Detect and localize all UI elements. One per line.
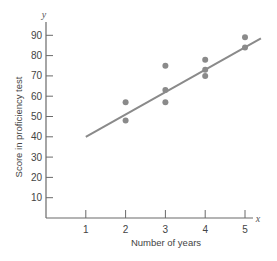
regression-line-segment — [86, 38, 261, 136]
y-tick-label: 40 — [31, 131, 43, 142]
y-axis-variable: y — [41, 9, 47, 20]
x-tick-label: 4 — [202, 224, 208, 235]
x-axis-label: Number of years — [131, 237, 201, 248]
y-tick-label: 20 — [31, 172, 43, 183]
data-point — [123, 99, 129, 105]
data-point — [123, 118, 129, 124]
data-point — [202, 67, 208, 73]
y-tick-label: 60 — [31, 91, 43, 102]
y-axis-label: Score in proficiency test — [13, 76, 24, 177]
y-tick-label: 50 — [31, 111, 43, 122]
data-point — [202, 73, 208, 79]
y-tick-label: 10 — [31, 192, 43, 203]
x-axis-variable: x — [255, 213, 261, 224]
x-axis-ticks: 12345 — [83, 210, 248, 235]
y-tick-label: 30 — [31, 152, 43, 163]
data-point — [162, 63, 168, 69]
data-point — [202, 57, 208, 63]
x-tick-label: 2 — [123, 224, 129, 235]
x-tick-label: 3 — [163, 224, 169, 235]
scatter-chart: 102030405060708090 12345 y x Number of y… — [0, 0, 277, 261]
data-point — [162, 99, 168, 105]
data-point — [162, 87, 168, 93]
data-point — [242, 34, 248, 40]
data-points — [123, 34, 248, 123]
x-tick-label: 1 — [83, 224, 89, 235]
axes — [46, 22, 253, 218]
y-tick-label: 90 — [31, 30, 43, 41]
y-tick-label: 80 — [31, 50, 43, 61]
data-point — [242, 44, 248, 50]
y-tick-label: 70 — [31, 70, 43, 81]
regression-line — [86, 38, 261, 136]
x-tick-label: 5 — [242, 224, 248, 235]
y-axis-ticks: 102030405060708090 — [31, 30, 53, 203]
